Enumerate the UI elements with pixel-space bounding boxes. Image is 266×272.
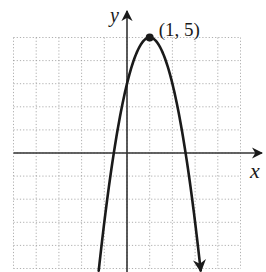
- vertex-point: [146, 34, 154, 42]
- vertex-label: (1, 5): [159, 19, 200, 41]
- parabola-graph: (1, 5) y x: [0, 0, 266, 272]
- y-axis-label: y: [108, 4, 119, 27]
- x-axis-label: x: [249, 158, 260, 183]
